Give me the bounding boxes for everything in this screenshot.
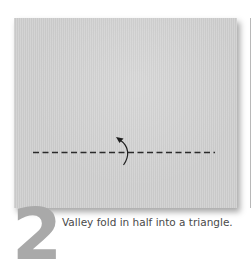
step-instruction: Valley fold in half into a triangle. (62, 216, 233, 228)
paper-square (14, 18, 237, 208)
paper-shading (14, 18, 237, 208)
adjacent-panel-edge (250, 18, 251, 208)
step-number: 2 (12, 198, 60, 263)
